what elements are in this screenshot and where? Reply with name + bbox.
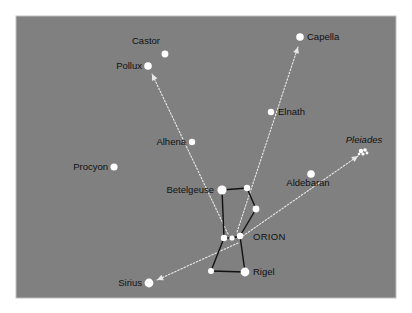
label-rigel: Rigel — [253, 266, 275, 277]
label-castor: Castor — [132, 35, 160, 46]
star-mintaka — [237, 233, 243, 239]
saiph-rigel-line — [211, 271, 245, 272]
label-capella: Capella — [307, 31, 340, 42]
star-procyon — [110, 163, 117, 170]
star-pollux — [144, 62, 152, 70]
star-chart: CastorPolluxCapellaElnathAlhenaPleiadesP… — [0, 0, 412, 313]
chart-panel — [16, 16, 396, 298]
star-bellatrix — [253, 206, 260, 213]
star-capella — [296, 33, 304, 41]
label-pleiades: Pleiades — [346, 134, 383, 145]
label-sirius: Sirius — [118, 277, 142, 288]
star-map-canvas: CastorPolluxCapellaElnathAlhenaPleiadesP… — [0, 0, 412, 313]
star-sirius — [145, 279, 154, 288]
label-orion-constellation: ORION — [253, 231, 286, 242]
star-elnath — [268, 109, 274, 115]
star-castor — [162, 51, 169, 58]
star-alnilam — [229, 235, 234, 240]
pleiades-cluster-star-2 — [361, 152, 364, 155]
star-alnitak — [221, 235, 227, 241]
pleiades-cluster-star-4 — [358, 153, 361, 156]
star-rigel — [241, 268, 250, 277]
label-elnath: Elnath — [278, 106, 305, 117]
label-pollux: Pollux — [116, 60, 142, 71]
star-saiph — [208, 268, 214, 274]
pleiades-cluster-star-1 — [363, 148, 367, 152]
label-aldebaran: Aldebaran — [286, 177, 329, 188]
star-meissa — [244, 185, 250, 191]
star-alhena — [189, 139, 195, 145]
label-procyon: Procyon — [73, 161, 108, 172]
label-betelgeuse: Betelgeuse — [166, 184, 214, 195]
star-betelgeuse — [217, 185, 226, 194]
pleiades-cluster-star-3 — [366, 152, 369, 155]
label-alhena: Alhena — [156, 136, 186, 147]
